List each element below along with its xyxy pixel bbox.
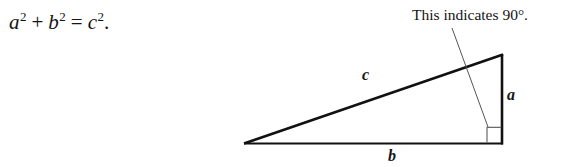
right-angle-square-icon	[487, 127, 501, 142]
annotation-leader-line	[452, 28, 488, 127]
hypotenuse-label: c	[362, 66, 369, 84]
hypotenuse-line	[244, 55, 503, 144]
vertical-leg-label: a	[507, 86, 515, 104]
right-triangle-drawing	[0, 0, 568, 167]
horizontal-leg-label: b	[388, 147, 396, 165]
figure-canvas: a2+b2=c2. This indicates 90°. c a b	[0, 0, 568, 167]
